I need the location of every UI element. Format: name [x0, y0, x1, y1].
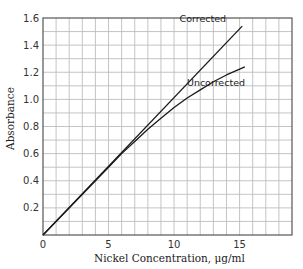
series-uncorrected-line — [43, 67, 245, 235]
x-tick-label: 5 — [105, 239, 111, 250]
x-tick-label: 0 — [40, 239, 46, 250]
annotation-corrected: Corrected — [180, 13, 227, 24]
y-tick-label: 0.6 — [23, 148, 39, 159]
y-tick-label: 1.0 — [23, 94, 39, 105]
y-tick-label: 0.8 — [23, 121, 39, 132]
y-tick-label: 1.6 — [23, 13, 39, 24]
x-axis-label: Nickel Concentration, μg/ml — [94, 252, 246, 264]
x-tick-label: 10 — [168, 239, 181, 250]
annotation-uncorrected: Uncorrected — [187, 77, 245, 88]
annotations: CorrectedUncorrected — [180, 13, 245, 88]
y-axis-label: Absorbance — [4, 87, 16, 151]
y-tick-label: 0.4 — [23, 175, 39, 186]
series-group — [43, 26, 245, 235]
y-tick-label: 0.2 — [23, 202, 39, 213]
y-tick-label: 1.2 — [23, 67, 39, 78]
grid — [43, 18, 292, 235]
y-tick-label: 1.4 — [23, 40, 39, 51]
absorbance-chart: 051015 0.20.40.60.81.01.21.41.6 Nickel C… — [0, 0, 303, 269]
x-tick-labels: 051015 — [40, 239, 246, 250]
y-tick-labels: 0.20.40.60.81.01.21.41.6 — [23, 13, 39, 214]
x-tick-label: 15 — [233, 239, 246, 250]
